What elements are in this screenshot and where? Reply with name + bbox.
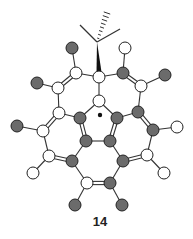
dark-atom bbox=[69, 199, 81, 211]
wedge-bond bbox=[97, 42, 102, 72]
dark-atom bbox=[74, 112, 86, 124]
bond bbox=[99, 31, 102, 32]
dark-atom bbox=[66, 155, 78, 167]
bond bbox=[100, 27, 104, 28]
dark-atom bbox=[111, 112, 123, 124]
bond bbox=[101, 23, 106, 25]
bond bbox=[104, 12, 110, 14]
dark-atom bbox=[117, 155, 129, 167]
dark-atom bbox=[31, 77, 43, 89]
light-atom bbox=[37, 125, 49, 137]
light-atom bbox=[141, 149, 153, 161]
light-atom bbox=[27, 167, 39, 179]
radical-dot bbox=[98, 113, 102, 117]
dark-atom bbox=[80, 135, 92, 147]
bond bbox=[80, 25, 97, 42]
light-atom bbox=[93, 71, 105, 83]
bond bbox=[97, 38, 99, 39]
light-atom bbox=[81, 177, 93, 189]
light-atom bbox=[53, 107, 65, 119]
bond bbox=[102, 19, 107, 21]
light-atom bbox=[70, 67, 82, 79]
tert-butyl-group bbox=[80, 12, 120, 72]
light-atom bbox=[171, 121, 183, 133]
light-atom bbox=[158, 167, 170, 179]
dark-atom bbox=[104, 177, 116, 189]
dark-atom bbox=[117, 67, 129, 79]
dark-atom bbox=[159, 69, 171, 81]
light-atom bbox=[135, 80, 147, 92]
compound-label: 14 bbox=[93, 214, 107, 229]
light-atom bbox=[52, 82, 64, 94]
dark-atom bbox=[147, 124, 159, 136]
dark-atom bbox=[116, 199, 128, 211]
dark-atom bbox=[11, 120, 23, 132]
dark-atom bbox=[104, 135, 116, 147]
dark-atom bbox=[132, 106, 144, 118]
bond bbox=[103, 16, 109, 18]
light-atom bbox=[43, 150, 55, 162]
light-atom bbox=[93, 95, 105, 107]
light-atom bbox=[119, 42, 131, 54]
dark-atom bbox=[66, 42, 78, 54]
bond bbox=[98, 34, 101, 35]
molecule-diagram bbox=[0, 0, 193, 239]
